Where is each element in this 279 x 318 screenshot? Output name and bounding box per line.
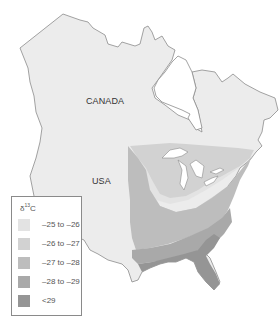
legend-item: –28 to –29	[18, 276, 82, 290]
usa-label: USA	[92, 176, 111, 186]
legend-item: –26 to –27	[18, 238, 82, 252]
legend-swatch	[18, 295, 30, 307]
legend-item: –25 to –26	[18, 219, 82, 233]
legend: δ13C –25 to –26 –26 to –27 –27 to –28 –2…	[11, 196, 82, 316]
legend-swatch	[18, 238, 30, 250]
legend-swatch	[18, 276, 30, 288]
legend-title: δ13C	[20, 202, 36, 213]
legend-swatch	[18, 219, 30, 231]
canada-label: CANADA	[86, 96, 124, 106]
legend-item: <29	[18, 295, 82, 309]
legend-swatch	[18, 257, 30, 269]
legend-item: –27 to –28	[18, 257, 82, 271]
